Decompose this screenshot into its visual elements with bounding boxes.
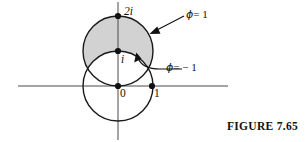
- phi-positive-value: = 1: [193, 8, 207, 20]
- phi-negative-value: = − 1: [173, 61, 196, 73]
- label-one: 1: [154, 88, 160, 100]
- label-phi-positive: ϕ= 1: [186, 9, 208, 20]
- figure-container: 2i i 0 1 ϕ= 1 ϕ= − 1 FIGURE 7.65: [0, 0, 308, 142]
- figure-caption: FIGURE 7.65: [227, 120, 298, 132]
- label-i: i: [121, 54, 124, 66]
- label-2i: 2i: [124, 6, 133, 18]
- label-origin: 0: [120, 88, 126, 100]
- point-2i-dot: [115, 13, 121, 19]
- label-phi-negative: ϕ= − 1: [166, 62, 197, 73]
